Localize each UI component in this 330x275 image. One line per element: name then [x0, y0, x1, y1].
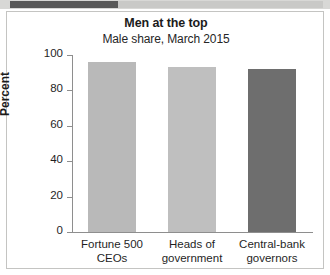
x-category-label-line: Central-bank — [239, 238, 305, 250]
x-category-label-line: government — [162, 252, 223, 264]
x-category-label-line: governors — [246, 252, 297, 264]
x-category-label: Fortune 500CEOs — [72, 238, 152, 265]
bar — [168, 67, 216, 232]
y-tick-mark — [67, 232, 72, 233]
band-segment-dark — [10, 1, 118, 8]
y-tick-label: 0 — [57, 224, 63, 236]
bar — [248, 69, 296, 232]
top-decorative-band — [0, 0, 330, 9]
bar — [88, 62, 136, 232]
x-category-label: Heads ofgovernment — [152, 238, 232, 265]
x-category-label-line: Fortune 500 — [81, 238, 143, 250]
chart-card: Men at the top Male share, March 2015 Pe… — [6, 11, 324, 269]
y-tick-label: 20 — [50, 189, 63, 201]
y-tick-label: 80 — [50, 82, 63, 94]
y-tick-label: 40 — [50, 153, 63, 165]
x-category-label-line: CEOs — [97, 252, 128, 264]
y-tick-label: 60 — [50, 118, 63, 130]
x-category-label: Central-bankgovernors — [232, 238, 312, 265]
plot-area — [72, 55, 312, 232]
y-tick-label: 100 — [44, 47, 63, 59]
x-category-label-line: Heads of — [169, 238, 215, 250]
y-axis-title: Percent — [0, 72, 12, 116]
chart-title: Men at the top — [7, 16, 325, 30]
x-axis-line — [72, 232, 313, 233]
band-segment-light — [118, 1, 323, 8]
chart-subtitle: Male share, March 2015 — [7, 32, 325, 46]
